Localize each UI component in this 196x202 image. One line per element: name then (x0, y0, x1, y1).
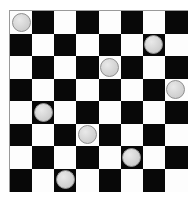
board-square-r0c7[interactable] (165, 11, 188, 34)
board-square-r0c2[interactable] (54, 11, 77, 34)
board-square-r3c3[interactable] (76, 79, 99, 102)
board-square-r5c1[interactable] (32, 124, 55, 147)
board-square-r7c7[interactable] (165, 169, 188, 192)
board-square-r7c6[interactable] (143, 169, 166, 192)
piece-r7c2[interactable] (56, 170, 75, 189)
board-square-r0c6[interactable] (143, 11, 166, 34)
board-square-r2c1[interactable] (32, 56, 55, 79)
board-square-r7c3[interactable] (76, 169, 99, 192)
board-square-r3c1[interactable] (32, 79, 55, 102)
board-square-r2c0[interactable] (10, 56, 33, 79)
board-square-r6c0[interactable] (10, 146, 33, 169)
board-square-r7c4[interactable] (99, 169, 122, 192)
board-square-r3c5[interactable] (121, 79, 144, 102)
piece-r6c5[interactable] (122, 148, 141, 167)
board-square-r3c2[interactable] (54, 79, 77, 102)
board-square-r7c1[interactable] (32, 169, 55, 192)
board-square-r2c6[interactable] (143, 56, 166, 79)
board-square-r5c4[interactable] (99, 124, 122, 147)
board-square-r1c2[interactable] (54, 34, 77, 57)
board-square-r2c2[interactable] (54, 56, 77, 79)
board-square-r3c0[interactable] (10, 79, 33, 102)
board-square-r0c5[interactable] (121, 11, 144, 34)
board-square-r1c0[interactable] (10, 34, 33, 57)
board-square-r1c4[interactable] (99, 34, 122, 57)
board-square-r0c1[interactable] (32, 11, 55, 34)
piece-r4c1[interactable] (34, 103, 53, 122)
board-square-r6c3[interactable] (76, 146, 99, 169)
board-square-r6c7[interactable] (165, 146, 188, 169)
board-square-r5c0[interactable] (10, 124, 33, 147)
board-square-r1c5[interactable] (121, 34, 144, 57)
board-square-r7c0[interactable] (10, 169, 33, 192)
piece-r0c0[interactable] (12, 13, 31, 32)
board-square-r2c5[interactable] (121, 56, 144, 79)
board-square-r0c3[interactable] (76, 11, 99, 34)
board-square-r6c1[interactable] (32, 146, 55, 169)
board-square-r6c4[interactable] (99, 146, 122, 169)
board-square-r2c7[interactable] (165, 56, 188, 79)
board-square-r4c3[interactable] (76, 101, 99, 124)
board-square-r6c6[interactable] (143, 146, 166, 169)
board-square-r6c2[interactable] (54, 146, 77, 169)
board-square-r5c5[interactable] (121, 124, 144, 147)
board-square-r2c3[interactable] (76, 56, 99, 79)
checkers-board[interactable] (10, 11, 187, 191)
board-square-r4c2[interactable] (54, 101, 77, 124)
board-square-r0c4[interactable] (99, 11, 122, 34)
board-square-r7c5[interactable] (121, 169, 144, 192)
board-square-r5c2[interactable] (54, 124, 77, 147)
board-square-r4c6[interactable] (143, 101, 166, 124)
board-square-r4c0[interactable] (10, 101, 33, 124)
board-square-r3c4[interactable] (99, 79, 122, 102)
checkers-board-frame (9, 10, 188, 192)
board-square-r5c7[interactable] (165, 124, 188, 147)
board-square-r5c6[interactable] (143, 124, 166, 147)
board-square-r3c6[interactable] (143, 79, 166, 102)
board-square-r4c5[interactable] (121, 101, 144, 124)
board-square-r1c3[interactable] (76, 34, 99, 57)
board-square-r1c1[interactable] (32, 34, 55, 57)
board-square-r4c7[interactable] (165, 101, 188, 124)
board-square-r4c4[interactable] (99, 101, 122, 124)
piece-r2c4[interactable] (100, 58, 119, 77)
board-square-r1c7[interactable] (165, 34, 188, 57)
